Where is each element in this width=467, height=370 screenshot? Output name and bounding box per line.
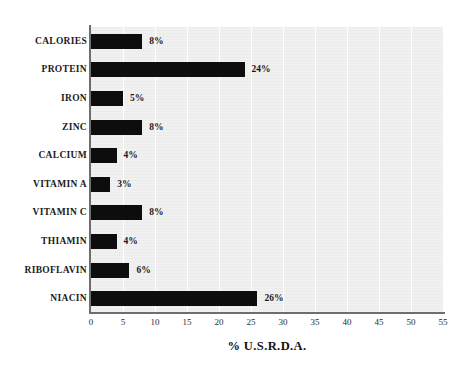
bar (91, 120, 142, 135)
bar (91, 91, 123, 106)
category-label: CALCIUM (38, 148, 87, 163)
y-axis-line (89, 25, 91, 314)
category-label: CALORIES (35, 34, 87, 49)
bar-value-label: 24% (252, 62, 271, 77)
gridline (347, 27, 348, 313)
bar (91, 62, 245, 77)
x-axis-title: % U.S.R.D.A. (91, 339, 443, 354)
category-label: VITAMIN C (32, 205, 87, 220)
bar (91, 205, 142, 220)
x-tick-label: 20 (207, 317, 231, 327)
bar (91, 263, 129, 278)
bar (91, 291, 257, 306)
bar-value-label: 3% (117, 177, 131, 192)
x-tick-label: 0 (79, 317, 103, 327)
x-tick-label: 50 (399, 317, 423, 327)
gridline (411, 27, 412, 313)
bar-value-label: 8% (149, 120, 163, 135)
x-tick-label: 45 (367, 317, 391, 327)
x-axis-line (89, 312, 445, 314)
category-label: ZINC (62, 120, 87, 135)
bar-value-label: 8% (149, 205, 163, 220)
category-label: VITAMIN A (33, 177, 87, 192)
bar-value-label: 4% (124, 234, 138, 249)
bar-value-label: 5% (130, 91, 144, 106)
x-tick-label: 40 (335, 317, 359, 327)
bar-value-label: 6% (136, 263, 150, 278)
gridline (283, 27, 284, 313)
x-tick-label: 35 (303, 317, 327, 327)
category-label: NIACIN (50, 291, 87, 306)
x-tick-label: 15 (175, 317, 199, 327)
bar (91, 234, 117, 249)
x-tick-label: 25 (239, 317, 263, 327)
bar (91, 177, 110, 192)
x-tick-label: 55 (431, 317, 455, 327)
x-tick-label: 30 (271, 317, 295, 327)
category-label: PROTEIN (42, 62, 87, 77)
gridline (379, 27, 380, 313)
x-tick-label: 10 (143, 317, 167, 327)
category-label: IRON (61, 91, 87, 106)
gridline (315, 27, 316, 313)
x-tick-label: 5 (111, 317, 135, 327)
bar-value-label: 4% (124, 148, 138, 163)
bar-value-label: 26% (264, 291, 283, 306)
bar-value-label: 8% (149, 34, 163, 49)
bar (91, 34, 142, 49)
bar (91, 148, 117, 163)
bar-chart: CALORIESPROTEINIRONZINCCALCIUMVITAMIN AV… (0, 0, 467, 370)
category-label: RIBOFLAVIN (25, 263, 87, 278)
category-label: THIAMIN (41, 234, 87, 249)
